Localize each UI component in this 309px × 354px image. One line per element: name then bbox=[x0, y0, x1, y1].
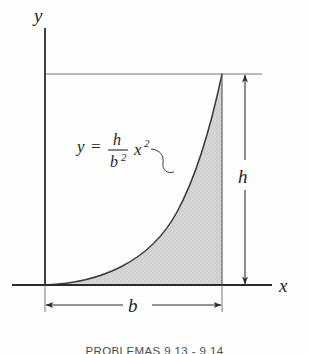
h-dimension-label: h bbox=[238, 166, 248, 187]
equation-lhs: y bbox=[75, 137, 85, 156]
figure-caption: PROBLEMAS 9.13 - 9.14 bbox=[0, 345, 309, 354]
y-axis-label: y bbox=[32, 5, 43, 26]
equation-leader-line bbox=[151, 149, 174, 173]
shaded-area-region bbox=[45, 74, 222, 285]
equation-denominator: b bbox=[110, 153, 118, 170]
equation-variable: x bbox=[133, 140, 142, 159]
equation-numerator: h bbox=[113, 131, 121, 148]
equation-equals: = bbox=[90, 137, 101, 156]
figure-container: y x b h y = h b 2 x 2 bbox=[0, 0, 309, 354]
b-dimension: b bbox=[46, 295, 221, 316]
h-dimension: h bbox=[238, 75, 248, 284]
figure-drawing: y x b h y = h b 2 x 2 bbox=[0, 0, 309, 354]
curve-equation: y = h b 2 x 2 bbox=[75, 131, 174, 173]
b-dimension-label: b bbox=[128, 295, 138, 316]
equation-denominator-exponent: 2 bbox=[121, 151, 127, 163]
x-axis-label: x bbox=[278, 275, 288, 296]
equation-variable-exponent: 2 bbox=[144, 137, 150, 149]
